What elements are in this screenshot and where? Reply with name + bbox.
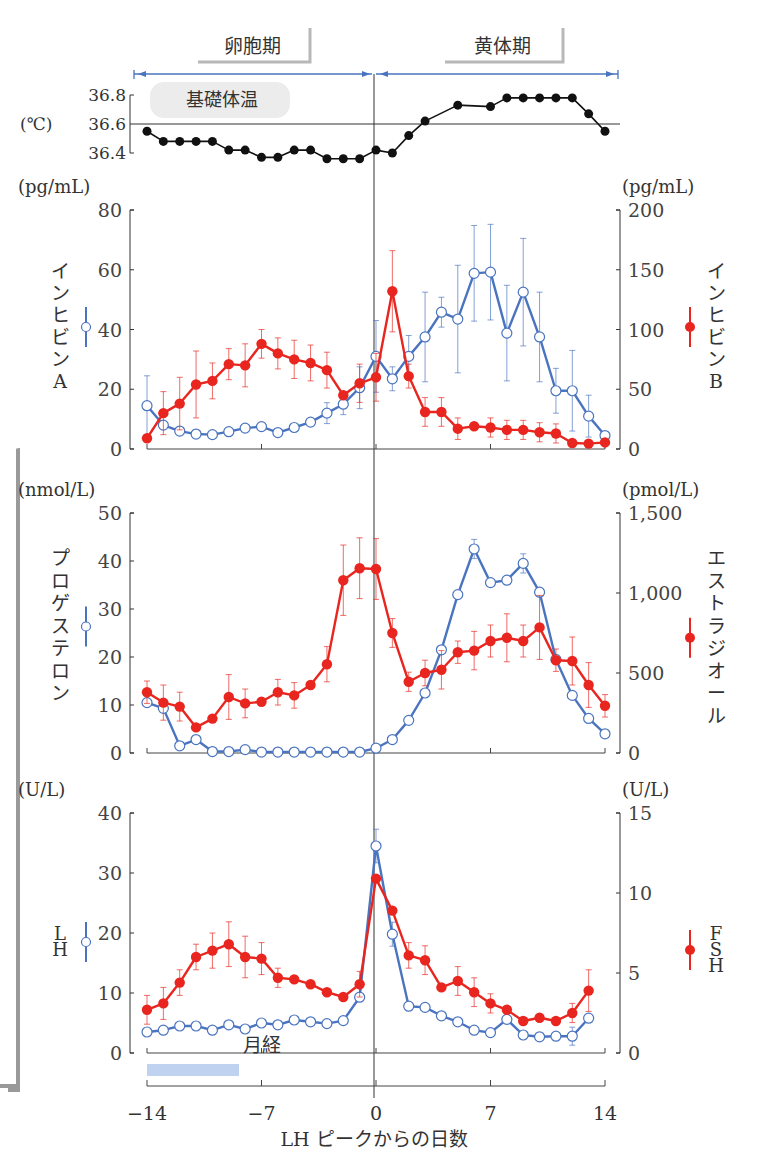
data-point-open (322, 1019, 332, 1029)
inhibin-right-tick: 200 (628, 199, 664, 221)
steroid-left-tick: 40 (98, 550, 122, 572)
steroid-left-tick: 50 (98, 502, 122, 524)
data-point-open (404, 1001, 414, 1011)
inhibin-right-tick: 150 (628, 259, 664, 281)
data-point-filled (322, 659, 332, 669)
data-point-open (502, 1014, 512, 1024)
data-point-filled (338, 992, 348, 1002)
filled-circle-icon (685, 322, 695, 332)
data-point-open (338, 747, 348, 757)
data-point-filled (436, 665, 446, 675)
data-point-filled (534, 1013, 544, 1023)
arrow-head-icon (380, 71, 388, 77)
bbt-tick: 36.6 (88, 114, 126, 134)
data-point-filled (338, 390, 348, 400)
data-point-filled (240, 360, 250, 370)
data-point-open (567, 690, 577, 700)
data-point-filled (551, 655, 561, 665)
steroid-left-label-char: ロ (51, 570, 70, 592)
data-point-filled (191, 722, 201, 732)
data-point-filled (420, 668, 430, 678)
phase-label-luteal: 黄体期 (474, 35, 531, 57)
bbt-tick: 36.8 (88, 85, 126, 105)
data-point-filled (175, 137, 184, 146)
data-point-filled (387, 905, 397, 915)
gonadotropin-left-tick: 20 (98, 922, 122, 944)
data-point-open (355, 747, 365, 757)
data-point-filled (583, 985, 593, 995)
data-point-filled (322, 365, 332, 375)
arrow-head-icon (606, 71, 614, 77)
steroid-right-tick: 500 (628, 662, 664, 684)
data-point-open (191, 1021, 201, 1031)
data-point-filled (207, 945, 217, 955)
bbt-unit: (℃) (20, 114, 52, 134)
data-point-open (240, 745, 250, 755)
inhibin-left-tick: 60 (98, 259, 122, 281)
inhibin-left-label-char: ヒ (51, 304, 70, 326)
gonadotropin-right-tick: 0 (628, 1042, 640, 1064)
data-point-filled (290, 146, 299, 155)
data-point-filled (551, 93, 560, 102)
data-point-filled (289, 690, 299, 700)
data-point-open (191, 735, 201, 745)
data-point-filled (518, 636, 528, 646)
data-point-filled (158, 697, 168, 707)
data-point-open (584, 411, 594, 421)
inhibin-left-unit: (pg/mL) (18, 176, 90, 197)
inhibin-left-label-char: ン (51, 348, 70, 370)
data-point-filled (142, 687, 152, 697)
data-point-filled (485, 998, 495, 1008)
data-point-open (502, 575, 512, 585)
data-point-filled (240, 952, 250, 962)
open-circle-icon (82, 938, 91, 947)
data-point-filled (502, 633, 512, 643)
data-point-filled (469, 987, 479, 997)
data-point-open (273, 1020, 283, 1030)
data-point-filled (158, 408, 168, 418)
data-point-filled (273, 973, 283, 983)
data-point-open (273, 428, 283, 438)
gonadotropin-left-tick: 30 (98, 862, 122, 884)
data-point-filled (600, 701, 610, 711)
data-point-open (404, 715, 414, 725)
inhibin-left-label-char: ビ (51, 326, 70, 348)
data-point-filled (354, 979, 364, 989)
data-point-filled (421, 117, 430, 126)
data-point-open (240, 423, 250, 433)
arrow-head-icon (138, 71, 146, 77)
data-point-filled (420, 955, 430, 965)
data-point-open (436, 1011, 446, 1021)
data-point-open (453, 590, 463, 600)
data-point-filled (354, 563, 364, 573)
data-point-filled (322, 154, 331, 163)
data-point-open (273, 747, 283, 757)
data-point-filled (175, 701, 185, 711)
data-point-open (240, 1024, 250, 1034)
steroid-right-label-char: オ (707, 660, 726, 682)
data-point-filled (485, 422, 495, 432)
data-point-open (322, 747, 332, 757)
data-point-open (289, 747, 299, 757)
data-point-filled (371, 564, 381, 574)
data-point-open (387, 374, 397, 384)
data-point-filled (420, 407, 430, 417)
data-point-filled (207, 713, 217, 723)
data-point-open (551, 386, 561, 396)
gonadotropin-right-unit: (U/L) (622, 779, 669, 800)
gonadotropin-left-unit: (U/L) (18, 779, 65, 800)
data-point-filled (224, 146, 233, 155)
inhibin-right-tick: 100 (628, 319, 664, 341)
steroid-right-label-char: ル (707, 705, 726, 727)
x-tick-label: 0 (370, 1102, 382, 1124)
gonadotropin-right-axis (616, 813, 620, 1053)
data-point-filled (567, 438, 577, 448)
menses-label: 月経 (243, 1034, 281, 1056)
data-point-open (518, 558, 528, 568)
data-point-open (371, 743, 381, 753)
inhibin-right-label-char: ン (707, 348, 726, 370)
data-point-open (306, 747, 316, 757)
data-point-filled (469, 421, 479, 431)
data-point-filled (224, 939, 234, 949)
data-point-filled (305, 979, 315, 989)
